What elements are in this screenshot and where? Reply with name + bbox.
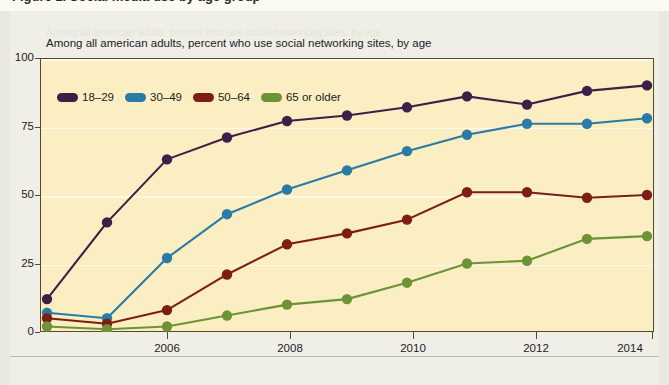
data-point[interactable]	[522, 256, 532, 266]
xtick-mark-2012	[536, 332, 537, 339]
legend-swatch-65-or-older	[261, 93, 282, 102]
xtick-mark-2006	[167, 332, 168, 339]
ytick-label-100: 100	[0, 51, 34, 63]
legend-swatch-30-49	[125, 93, 146, 102]
xtick-label-2006: 2006	[137, 342, 197, 354]
data-point[interactable]	[222, 269, 232, 279]
legend-label-18-29: 18–29	[82, 91, 114, 103]
data-point[interactable]	[642, 113, 652, 123]
data-point[interactable]	[522, 187, 532, 197]
ytick-label-25: 25	[4, 257, 34, 269]
data-point[interactable]	[342, 228, 352, 238]
data-point[interactable]	[522, 119, 532, 129]
data-point[interactable]	[342, 165, 352, 175]
xtick-mark-2014	[652, 332, 653, 339]
series-3	[42, 187, 652, 329]
xtick-label-2008: 2008	[260, 342, 320, 354]
data-point[interactable]	[582, 234, 592, 244]
cut-off-headline-text: Figure 1. Social media use by age group	[12, 0, 261, 4]
data-point[interactable]	[642, 231, 652, 241]
legend-item-50-64[interactable]: 50–64	[193, 91, 250, 103]
xtick-mark-2010	[413, 332, 414, 339]
data-point[interactable]	[222, 310, 232, 320]
series-line	[47, 118, 647, 318]
data-point[interactable]	[462, 130, 472, 140]
data-point[interactable]	[582, 119, 592, 129]
data-point[interactable]	[402, 214, 412, 224]
series-2	[42, 113, 652, 323]
xtick-label-2010: 2010	[383, 342, 443, 354]
data-point[interactable]	[222, 209, 232, 219]
series-line	[47, 236, 647, 329]
data-point[interactable]	[642, 190, 652, 200]
data-point[interactable]	[342, 294, 352, 304]
data-point[interactable]	[402, 146, 412, 156]
data-point[interactable]	[462, 258, 472, 268]
data-point[interactable]	[342, 110, 352, 120]
legend-label-30-49: 30–49	[150, 91, 182, 103]
data-point[interactable]	[522, 99, 532, 109]
data-point[interactable]	[162, 253, 172, 263]
data-point[interactable]	[282, 116, 292, 126]
data-point[interactable]	[42, 321, 52, 331]
legend-item-18-29[interactable]: 18–29	[57, 91, 114, 103]
data-point[interactable]	[42, 294, 52, 304]
ytick-label-75: 75	[4, 120, 34, 132]
ytick-label-0: 0	[4, 325, 34, 337]
data-point[interactable]	[222, 132, 232, 142]
series-1	[42, 80, 652, 304]
data-point[interactable]	[462, 91, 472, 101]
ytick-mark-0	[35, 332, 40, 333]
legend-swatch-50-64	[193, 93, 214, 102]
data-point[interactable]	[462, 187, 472, 197]
data-point[interactable]	[582, 193, 592, 203]
legend: 18–29 30–49 50–64 65 or older	[57, 91, 341, 103]
xtick-label-2012: 2012	[506, 342, 566, 354]
data-point[interactable]	[402, 277, 412, 287]
legend-label-65-or-older: 65 or older	[286, 91, 341, 103]
plot-wrapper: 100 75 50 25 0 2006 2008 2010 2012 2014 …	[0, 11, 669, 385]
page-rule-line	[10, 356, 659, 357]
data-point[interactable]	[162, 321, 172, 331]
data-point[interactable]	[642, 80, 652, 90]
cut-off-headline-strip: Figure 1. Social media use by age group	[0, 0, 669, 11]
data-point[interactable]	[162, 305, 172, 315]
legend-item-65-or-older[interactable]: 65 or older	[261, 91, 341, 103]
data-point[interactable]	[162, 154, 172, 164]
data-point[interactable]	[282, 239, 292, 249]
data-point[interactable]	[102, 217, 112, 227]
xtick-label-2014: 2014	[600, 342, 660, 354]
legend-swatch-18-29	[57, 93, 78, 102]
legend-label-50-64: 50–64	[218, 91, 250, 103]
ytick-label-50: 50	[4, 188, 34, 200]
xtick-mark-2008	[290, 332, 291, 339]
chart-page: Among all american adults, percent who u…	[0, 11, 669, 385]
data-point[interactable]	[402, 102, 412, 112]
legend-item-30-49[interactable]: 30–49	[125, 91, 182, 103]
data-point[interactable]	[282, 184, 292, 194]
data-point[interactable]	[282, 299, 292, 309]
data-point[interactable]	[582, 86, 592, 96]
